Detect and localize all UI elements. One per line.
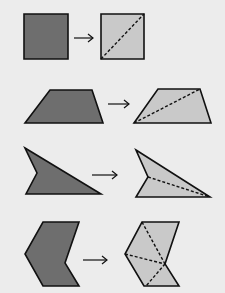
row-square <box>24 14 144 59</box>
original-chevron <box>25 222 79 286</box>
row-trapezoid <box>25 89 211 123</box>
divided-chevron <box>125 222 179 286</box>
divided-trapezoid <box>134 89 211 123</box>
row-chevron <box>25 222 179 286</box>
row-concave-arrowhead <box>25 148 210 197</box>
divided-concave-arrowhead <box>136 150 210 197</box>
arrow-right-icon <box>108 100 129 108</box>
arrow-right-icon <box>92 171 117 179</box>
original-trapezoid <box>25 90 103 123</box>
original-concave-arrowhead <box>25 148 101 194</box>
original-square <box>24 14 68 59</box>
shape-division-diagram <box>0 0 225 293</box>
arrow-right-icon <box>83 256 107 264</box>
arrow-right-icon <box>74 34 93 42</box>
